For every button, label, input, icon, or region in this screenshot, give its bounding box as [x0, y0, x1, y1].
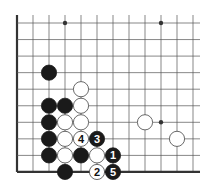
star-point-icon: [63, 21, 67, 25]
black-stone: [41, 65, 56, 80]
black-stone: [41, 98, 56, 113]
go-board: 43125: [0, 0, 216, 192]
white-stone: [169, 131, 184, 146]
black-stone: [41, 131, 56, 146]
black-stone: [73, 148, 88, 163]
black-stone-icon: [41, 115, 56, 130]
white-stone-icon: [73, 115, 88, 130]
white-stone: [73, 98, 88, 113]
star-point-icon: [159, 120, 163, 124]
move-number-label: 1: [110, 149, 116, 161]
white-stone: [57, 115, 72, 130]
white-stone-icon: [89, 148, 104, 163]
black-stone-icon: [41, 148, 56, 163]
white-stone: [73, 82, 88, 97]
white-stone: [137, 115, 152, 130]
black-stone: [57, 98, 72, 113]
move-number-label: 4: [78, 133, 85, 145]
black-stone-move-1: 1: [105, 148, 120, 163]
move-number-label: 5: [110, 166, 116, 178]
black-stone-icon: [73, 148, 88, 163]
star-point-icon: [159, 21, 163, 25]
white-stone-icon: [169, 131, 184, 146]
white-stone: [57, 148, 72, 163]
white-stone-icon: [73, 82, 88, 97]
white-stone-move-4: 4: [73, 131, 88, 146]
black-stone-icon: [41, 65, 56, 80]
black-stone-move-3: 3: [89, 131, 104, 146]
black-stone: [41, 148, 56, 163]
white-stone-icon: [57, 131, 72, 146]
white-stone-icon: [137, 115, 152, 130]
black-stone-icon: [41, 131, 56, 146]
black-stone: [57, 164, 72, 179]
move-number-label: 3: [94, 133, 100, 145]
grid-lines: [17, 15, 200, 172]
black-stone: [41, 115, 56, 130]
white-stone-move-2: 2: [89, 164, 104, 179]
black-stone-move-5: 5: [105, 164, 120, 179]
white-stone-icon: [57, 148, 72, 163]
white-stone: [57, 131, 72, 146]
move-number-label: 2: [94, 166, 100, 178]
black-stone-icon: [57, 164, 72, 179]
white-stone: [73, 115, 88, 130]
white-stone-icon: [57, 115, 72, 130]
white-stone-icon: [73, 98, 88, 113]
white-stone: [89, 148, 104, 163]
black-stone-icon: [57, 98, 72, 113]
black-stone-icon: [41, 98, 56, 113]
